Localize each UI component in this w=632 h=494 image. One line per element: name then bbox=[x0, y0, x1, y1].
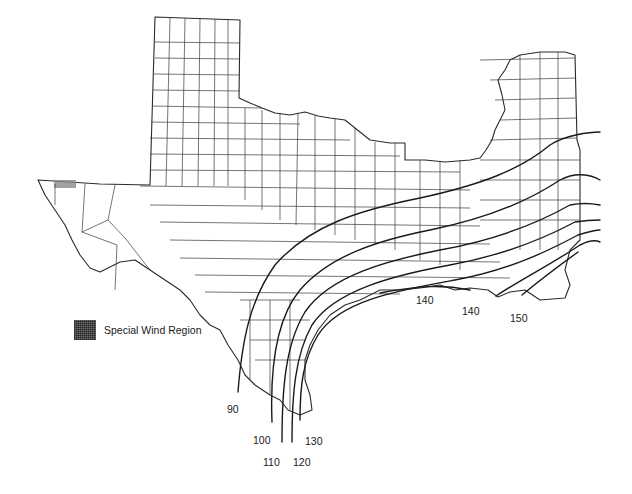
legend-label: Special Wind Region bbox=[104, 324, 201, 336]
contour-label-130: 130 bbox=[305, 436, 323, 447]
contour-label-140b: 140 bbox=[462, 306, 480, 317]
special-wind-region-swatch-icon bbox=[74, 320, 96, 340]
map-legend: Special Wind Region bbox=[74, 320, 201, 340]
contour-label-110: 110 bbox=[263, 457, 280, 468]
contour-label-90: 90 bbox=[227, 404, 239, 415]
special-wind-region-area bbox=[54, 180, 76, 188]
contour-label-100: 100 bbox=[253, 435, 271, 446]
contour-label-120: 120 bbox=[293, 457, 311, 468]
contour-label-140a: 140 bbox=[416, 295, 434, 306]
wind-speed-map bbox=[0, 0, 632, 494]
contour-label-150: 150 bbox=[510, 313, 528, 324]
